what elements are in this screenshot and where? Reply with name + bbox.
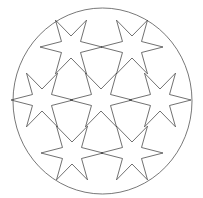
star-bottom-right-icon: [101, 126, 163, 180]
star-middle-left-icon: [11, 73, 73, 127]
star-middle-right-icon: [129, 73, 191, 127]
stars-group: [11, 20, 191, 180]
star-circle-diagram: [0, 0, 203, 198]
star-top-right-icon: [101, 20, 163, 74]
star-center-icon: [70, 73, 132, 127]
star-top-left-icon: [40, 20, 102, 74]
star-bottom-left-icon: [41, 126, 103, 180]
